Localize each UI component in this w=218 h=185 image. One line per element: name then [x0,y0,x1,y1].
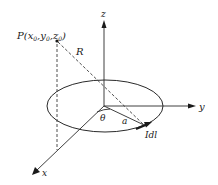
y-arrow-icon [188,104,196,109]
current-element-label: Idl [144,130,157,140]
z-axis [102,20,107,106]
distance-r-label: R [75,46,84,57]
y-axis-label: y [198,101,205,112]
x-axis-label: x [42,168,47,178]
x-axis [32,106,104,175]
current-element [136,122,152,129]
radius-a-label: a [122,116,127,126]
current-loop-diagram: P(x0,y0,z0) R z y x θ a Idl [0,0,218,185]
z-arrow-icon [102,20,107,28]
z-axis-label: z [100,9,106,19]
point-p-label: P(x0,y0,z0) [16,30,66,42]
theta-label: θ [100,113,106,123]
y-axis [104,104,196,109]
current-arrow-icon [144,122,152,128]
